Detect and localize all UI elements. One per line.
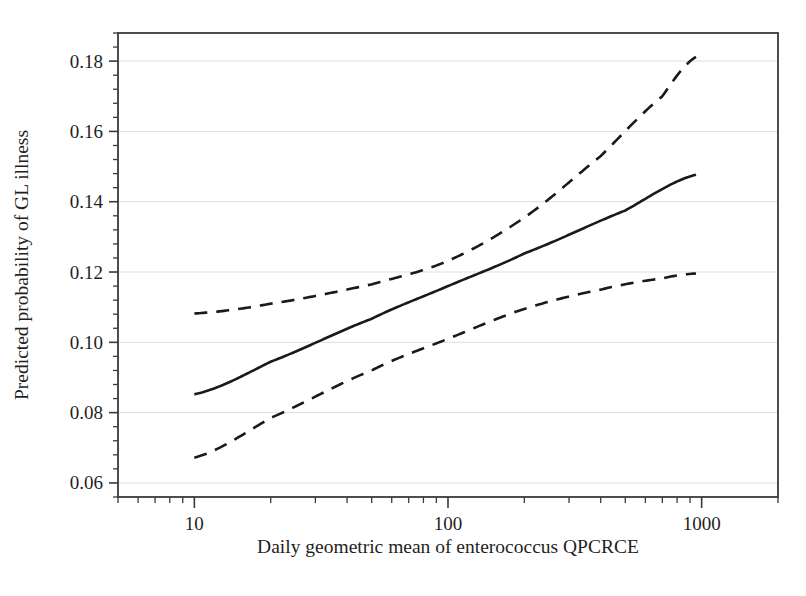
chart-figure: 0.060.080.100.120.140.160.18 101001000 D… — [0, 0, 806, 596]
y-axis-ticks — [109, 61, 118, 483]
y-tick-label: 0.18 — [70, 51, 103, 72]
x-axis-title: Daily geometric mean of enterococcus QPC… — [257, 536, 639, 557]
y-tick-label: 0.06 — [70, 472, 103, 493]
y-tick-label: 0.12 — [70, 262, 103, 283]
series-line — [194, 57, 696, 314]
y-tick-label: 0.14 — [70, 191, 104, 212]
y-tick-label: 0.10 — [70, 332, 103, 353]
y-axis-title: Predicted probability of GL illness — [11, 130, 32, 400]
data-series-group — [194, 57, 696, 458]
x-tick-label: 10 — [185, 513, 204, 534]
x-tick-label: 1000 — [683, 513, 721, 534]
x-axis-tick-labels: 101001000 — [185, 513, 721, 534]
series-line — [194, 273, 696, 457]
y-tick-label: 0.08 — [70, 402, 103, 423]
y-axis-tick-labels: 0.060.080.100.120.140.160.18 — [70, 51, 104, 494]
line-chart: 0.060.080.100.120.140.160.18 101001000 D… — [0, 0, 806, 596]
x-tick-label: 100 — [434, 513, 463, 534]
plot-frame — [118, 33, 778, 497]
gridlines-group — [118, 61, 778, 483]
y-tick-label: 0.16 — [70, 121, 103, 142]
